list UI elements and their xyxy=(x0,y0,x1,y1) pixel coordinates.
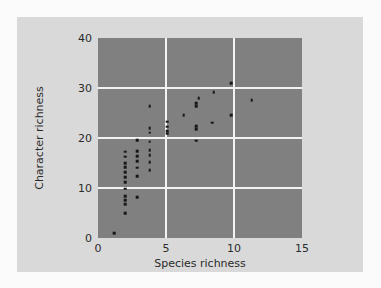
y-tick-label: 20 xyxy=(78,132,92,145)
data-point xyxy=(124,212,127,215)
scatter-plot: 010203040 051015 Species richness Charac… xyxy=(98,38,302,238)
data-point xyxy=(148,127,151,130)
data-point xyxy=(148,149,151,152)
data-point xyxy=(212,91,215,94)
x-tick-label: 5 xyxy=(163,242,170,255)
data-point xyxy=(195,128,198,131)
data-point xyxy=(195,102,198,105)
y-tick-label: 10 xyxy=(78,182,92,195)
data-point xyxy=(124,162,127,165)
y-tick-label: 30 xyxy=(78,82,92,95)
data-point xyxy=(211,121,214,124)
data-point xyxy=(136,166,139,169)
data-point xyxy=(124,195,127,198)
data-point xyxy=(124,171,127,174)
data-point xyxy=(136,150,139,153)
data-point xyxy=(230,114,233,117)
data-point xyxy=(166,130,169,133)
data-point xyxy=(182,114,185,117)
data-point xyxy=(195,139,198,142)
data-point xyxy=(148,105,151,108)
data-point xyxy=(136,175,139,178)
data-point xyxy=(124,176,127,179)
x-tick-label: 0 xyxy=(95,242,102,255)
data-point xyxy=(136,160,139,163)
data-point xyxy=(136,155,139,158)
data-point xyxy=(197,97,200,100)
data-point xyxy=(124,203,127,206)
x-tick-label: 10 xyxy=(227,242,241,255)
figure-card: 010203040 051015 Species richness Charac… xyxy=(17,17,363,272)
x-axis-label: Species richness xyxy=(154,257,246,270)
data-point xyxy=(113,232,116,235)
data-point xyxy=(148,140,151,143)
gridline-vertical xyxy=(233,38,235,238)
data-point xyxy=(166,132,169,135)
data-point xyxy=(148,169,151,172)
gridline-horizontal xyxy=(98,187,302,189)
data-point xyxy=(124,199,127,202)
data-point xyxy=(136,139,139,142)
gridline-vertical xyxy=(165,38,167,238)
data-point xyxy=(124,181,127,184)
data-point xyxy=(148,161,151,164)
data-point xyxy=(124,187,127,190)
data-point xyxy=(136,196,139,199)
y-axis-label: Character richness xyxy=(33,86,46,190)
y-tick-label: 40 xyxy=(78,32,92,45)
data-point xyxy=(195,125,198,128)
y-tick-label: 0 xyxy=(85,232,92,245)
gridline-horizontal xyxy=(98,87,302,89)
data-point xyxy=(148,154,151,157)
data-point xyxy=(148,131,151,134)
data-point xyxy=(195,105,198,108)
gridline-horizontal xyxy=(98,137,302,139)
x-tick-label: 15 xyxy=(295,242,309,255)
data-point xyxy=(230,82,233,85)
data-point xyxy=(124,150,127,153)
data-point xyxy=(124,155,127,158)
data-point xyxy=(250,99,253,102)
data-point xyxy=(166,125,169,128)
data-point xyxy=(166,120,169,123)
data-point xyxy=(124,166,127,169)
